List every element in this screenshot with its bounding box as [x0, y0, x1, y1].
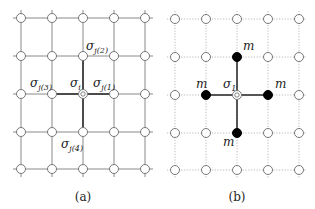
- lattice-node: [171, 129, 180, 138]
- neighbor-label: m: [223, 135, 234, 149]
- lattice-node: [171, 15, 180, 24]
- lattice-node: [233, 166, 242, 175]
- lattice-node: [295, 91, 304, 100]
- lattice-node: [141, 128, 150, 137]
- lattice-node: [48, 52, 57, 61]
- neighbor-label: σj(1): [93, 76, 115, 92]
- neighbor-label: σj(4): [61, 137, 83, 153]
- lattice-node: [79, 14, 88, 23]
- neighbor-label: m: [243, 39, 254, 53]
- center-spin-label: σi: [70, 76, 81, 92]
- center-spin-label: σ1: [223, 77, 236, 93]
- neighbor-label: m: [275, 77, 286, 91]
- lattice-node: [141, 52, 150, 61]
- lattice-node: [171, 166, 180, 175]
- lattice-node: [295, 166, 304, 175]
- lattice-node: [202, 15, 211, 24]
- lattice-node: [17, 14, 26, 23]
- lattice-node: [295, 53, 304, 62]
- lattice-node: [110, 52, 119, 61]
- mean-field-node: [264, 91, 273, 100]
- lattice-node: [48, 128, 57, 137]
- lattice-node: [202, 166, 211, 175]
- lattice-node: [48, 14, 57, 23]
- lattice-node: [295, 129, 304, 138]
- lattice-node: [17, 90, 26, 99]
- lattice-node: [17, 165, 26, 174]
- neighbor-label: σj(2): [86, 39, 108, 55]
- panel-caption: (b): [228, 190, 245, 204]
- lattice-diagram: σiσj(1)σj(2)σj(3)σj(4)(a) σ1mmmm(b): [0, 0, 315, 209]
- lattice-node: [110, 14, 119, 23]
- mean-field-node: [202, 91, 211, 100]
- lattice-node: [141, 90, 150, 99]
- neighbor-label: σj(3): [30, 76, 52, 92]
- lattice-node: [171, 53, 180, 62]
- lattice-node: [79, 128, 88, 137]
- lattice-node: [264, 129, 273, 138]
- lattice-node: [17, 52, 26, 61]
- lattice-node: [141, 14, 150, 23]
- panel-caption: (a): [75, 190, 92, 204]
- lattice-node: [264, 166, 273, 175]
- lattice-node: [110, 128, 119, 137]
- lattice-node: [17, 128, 26, 137]
- lattice-node: [110, 165, 119, 174]
- lattice-node: [233, 15, 242, 24]
- lattice-node: [171, 91, 180, 100]
- lattice-node: [79, 165, 88, 174]
- mean-field-node: [233, 53, 242, 62]
- lattice-node: [202, 53, 211, 62]
- panel-a-mean-field-lattice: σiσj(1)σj(2)σj(3)σj(4)(a): [13, 10, 153, 204]
- neighbor-label: m: [196, 77, 207, 91]
- lattice-node: [264, 53, 273, 62]
- lattice-node: [141, 165, 150, 174]
- lattice-node: [48, 165, 57, 174]
- lattice-node: [264, 15, 273, 24]
- lattice-node: [202, 129, 211, 138]
- lattice-node: [295, 15, 304, 24]
- panel-b-approximation-lattice: σ1mmmm(b): [167, 11, 307, 204]
